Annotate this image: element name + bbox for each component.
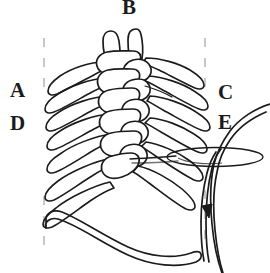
vertebra-link-11 <box>101 153 139 178</box>
tube-inner-wall <box>214 112 266 273</box>
elliptical-ring <box>167 148 263 167</box>
anatomical-line-drawing <box>0 0 270 273</box>
catheter-tube <box>201 104 270 273</box>
label-a: A <box>10 80 25 101</box>
label-d: D <box>10 113 25 134</box>
lower-costal-arch <box>46 211 202 265</box>
figure-container: B A D C E <box>0 0 270 273</box>
rib-right-6 <box>133 166 195 210</box>
label-c: C <box>218 82 233 103</box>
label-b: B <box>122 0 136 18</box>
label-e: E <box>218 112 232 133</box>
costal-arch-outline <box>46 211 202 265</box>
vertebral-column-braid <box>96 29 151 178</box>
rib-left-7 <box>43 182 114 228</box>
